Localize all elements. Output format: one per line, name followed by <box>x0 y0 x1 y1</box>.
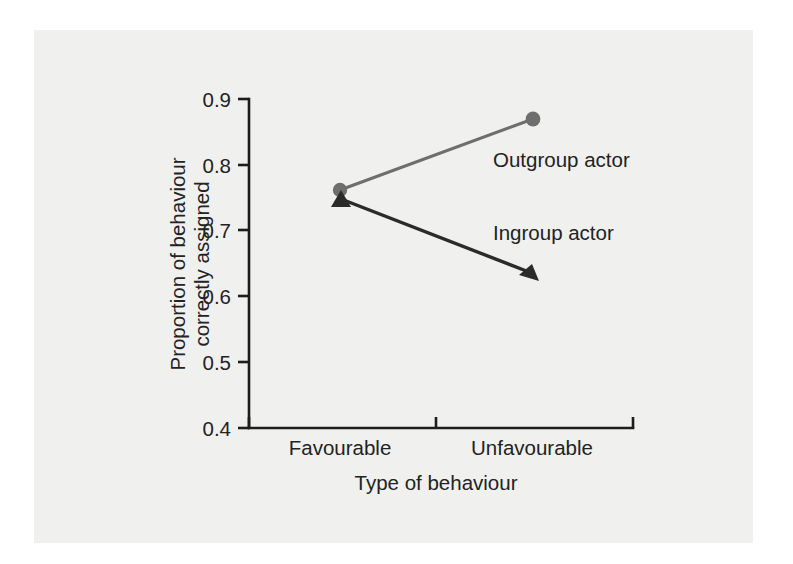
series-annotation-ingroup-actor: Ingroup actor <box>493 221 614 244</box>
y-tick-label-1: 0.8 <box>203 154 232 177</box>
x-axis-category-labels: Favourable Unfavourable <box>289 436 593 459</box>
x-axis-title: Type of behaviour <box>355 471 518 494</box>
x-category-label-favourable: Favourable <box>289 436 392 459</box>
y-tick-label-5: 0.4 <box>203 417 232 440</box>
y-axis-title-line2: correctly assigned <box>190 181 213 346</box>
data-point-ingroup-unfavourable <box>519 264 539 281</box>
y-axis-title-line1: Proportion of behaviour <box>166 157 189 370</box>
x-category-label-unfavourable: Unfavourable <box>471 436 593 459</box>
y-axis-title: Proportion of behaviour correctly assign… <box>166 157 213 370</box>
y-tick-label-0: 0.9 <box>203 88 232 111</box>
figure-root: 0.9 0.8 0.7 0.6 0.5 0.4 Proportion of be… <box>0 0 793 564</box>
y-tick-label-4: 0.5 <box>203 351 232 374</box>
series-annotation-outgroup-actor: Outgroup actor <box>493 148 630 171</box>
line-chart: 0.9 0.8 0.7 0.6 0.5 0.4 Proportion of be… <box>0 0 793 564</box>
data-point-outgroup-unfavourable <box>526 112 541 127</box>
